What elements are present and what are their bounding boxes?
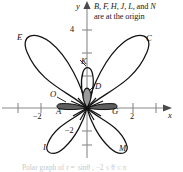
x-axis-label: x [168,110,172,120]
o-pointer-line [57,97,66,102]
y-axis-arrow [83,1,90,9]
point-label-D: D [95,81,101,91]
y-axis-label: y [76,1,80,11]
x-tick-label-2: 2 [130,112,134,121]
origin-note-tail: are at the origin [94,12,145,21]
point-label-M: M [119,143,126,153]
x-tick-label-neg2: −2 [33,112,42,121]
point-label-O: O [50,89,56,99]
y-tick-label-neg2: −2 [65,126,74,135]
point-label-E: E [17,32,22,42]
point-label-C: C [146,33,152,43]
polar-plot-svg [0,0,183,172]
origin-note-conjunction: and [135,2,151,11]
axes-group [2,9,163,158]
point-label-G: G [112,106,118,116]
polar-rose-figure: B, F, H, J, L, and N are at the origin x… [0,0,183,172]
point-label-I: I [43,142,46,152]
origin-note-points: B, F, H, J, L, [94,2,135,11]
figure-caption: Polar graph of r = sinθ , −2 ≤ θ ≤ π [22,163,182,172]
point-label-K: K [81,56,87,66]
origin-note-last-point: N [150,2,155,11]
origin-note: B, F, H, J, L, and N are at the origin [94,2,182,21]
y-tick-label-4: 4 [70,25,74,34]
petal-C [87,35,149,108]
point-label-A: A [56,106,61,116]
